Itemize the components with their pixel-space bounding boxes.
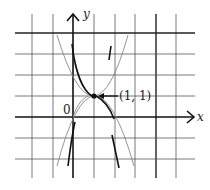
tangent-point <box>91 93 96 98</box>
steep-upper-left-curve <box>72 44 92 96</box>
lower-through-curve <box>96 96 114 119</box>
point-label: (1, 1) <box>119 89 151 103</box>
x-axis-label: x <box>197 110 204 124</box>
y-axis-label: y <box>82 7 90 21</box>
origin-label: 0 <box>63 103 71 117</box>
x-axis <box>15 111 194 123</box>
steep-lower-right-curve <box>112 135 119 168</box>
bold-curves <box>68 44 119 168</box>
upward-parabola <box>57 35 128 96</box>
steep-upper-right-curve <box>109 46 111 60</box>
curve-tangent-diagram: (1, 1) 0 x y <box>0 0 210 190</box>
